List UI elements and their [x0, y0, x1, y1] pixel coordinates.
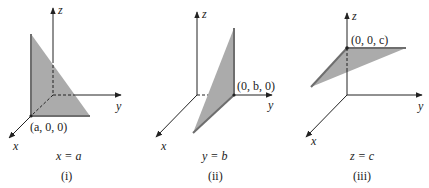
- z-axis-label: z: [201, 7, 207, 21]
- plane-y-equals-b: [193, 28, 234, 133]
- y-axis-label: y: [417, 99, 424, 113]
- panel-caption: (ii): [208, 169, 223, 183]
- point-marker: [345, 46, 349, 50]
- point-label: (a, 0, 0): [30, 120, 67, 134]
- z-axis-label: z: [57, 3, 63, 17]
- y-axis-label: y: [115, 99, 122, 113]
- z-axis-label: z: [351, 9, 357, 23]
- equation-label: y = b: [201, 149, 227, 163]
- plane-z-equals-c: [311, 48, 406, 87]
- panel-i: z y x (a, 0, 0) x = a (i): [9, 3, 122, 183]
- x-axis: [156, 95, 197, 137]
- panel-caption: (i): [61, 169, 72, 183]
- panel-iii: z y x (0, 0, c) z = c (iii): [306, 9, 424, 183]
- planes-diagram: z y x (a, 0, 0) x = a (i) z y x (0, b, 0…: [0, 0, 429, 188]
- point-marker: [232, 93, 235, 96]
- point-marker: [29, 114, 32, 117]
- point-label: (0, 0, c): [351, 33, 388, 47]
- panel-caption: (iii): [353, 169, 371, 183]
- plane-x-equals-a: [31, 34, 90, 116]
- point-label: (0, b, 0): [237, 79, 275, 93]
- equation-label: z = c: [349, 149, 375, 163]
- y-axis-label: y: [267, 98, 274, 112]
- equation-label: x = a: [55, 149, 81, 163]
- panel-ii: z y x (0, b, 0) y = b (ii): [156, 7, 275, 183]
- x-axis-label: x: [160, 139, 167, 153]
- x-axis: [306, 95, 347, 137]
- x-axis-label: x: [310, 134, 317, 148]
- x-axis: [9, 116, 31, 138]
- x-axis-label: x: [12, 139, 19, 153]
